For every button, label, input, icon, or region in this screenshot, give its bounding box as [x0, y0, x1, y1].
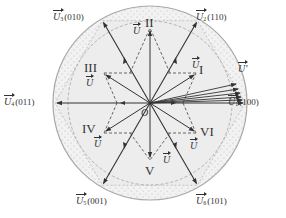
sector-v: V — [145, 164, 154, 177]
sector-i-u: U — [192, 60, 199, 70]
sector-v-u: U — [163, 155, 170, 165]
sector-iii-u: U — [86, 78, 93, 88]
label-u-prime: U' — [238, 64, 247, 74]
sector-ii-u: U — [133, 26, 140, 36]
sector-iv: IV — [82, 122, 96, 135]
label-u5: U5(001) — [76, 196, 107, 208]
sector-ii: II — [145, 16, 154, 29]
label-u2: U2(110) — [196, 12, 226, 24]
sector-vi-u: U — [190, 141, 197, 151]
sector-iv-u: U — [94, 139, 101, 149]
sector-vi: VI — [200, 125, 214, 138]
sector-i: I — [199, 63, 203, 76]
label-u4: U4(011) — [4, 97, 34, 109]
origin-label: O — [141, 107, 148, 118]
label-u6: U6(101) — [196, 196, 227, 208]
label-u1: U1(100) — [228, 97, 259, 109]
label-u3: U3(010) — [53, 12, 84, 24]
sector-iii: III — [84, 61, 97, 74]
space-vector-diagram: U1(100) U2(110) U3(010) U4(011) U5(001) … — [0, 0, 286, 218]
